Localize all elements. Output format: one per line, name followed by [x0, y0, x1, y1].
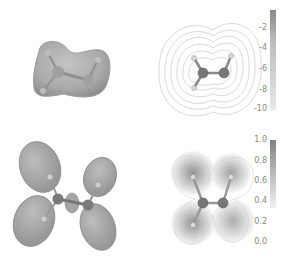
colorbar-bottom-tick: 0.6 [245, 177, 267, 185]
colorbar-top-tick: -2 [245, 24, 267, 32]
colorbar-bottom-tick: 0.2 [245, 218, 267, 226]
colorbar-bottom-tick: 0.8 [245, 157, 267, 165]
colorbar-top-tick: -10 [245, 105, 267, 113]
colorbar-bottom [270, 140, 276, 208]
colorbar-top-tick: -6 [245, 65, 267, 73]
colorbar-top-tick: -8 [245, 86, 267, 94]
colorbar-bottom-tick: 0.4 [245, 197, 267, 205]
colorbar-top [270, 10, 276, 110]
colorbar-top-tick: -4 [245, 44, 267, 52]
potential-isosurface-image [0, 0, 143, 129]
panel-a-isosurface [0, 0, 143, 129]
colorbar-bottom-tick: 0.0 [245, 238, 267, 246]
colorbar-bottom-tick: 1.0 [245, 136, 267, 144]
panel-c-orbital-isosurface [0, 129, 143, 258]
orbital-isosurface-image [0, 129, 143, 258]
